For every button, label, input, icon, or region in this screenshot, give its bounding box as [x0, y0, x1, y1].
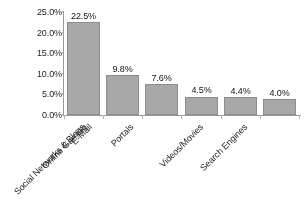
x-tick-mark: [221, 115, 222, 119]
bar-value-label: 7.6%: [144, 73, 179, 83]
y-tick-label: 25.0%: [4, 7, 62, 17]
bar-value-label: 4.4%: [223, 86, 258, 96]
x-tick-mark: [142, 115, 143, 119]
bar-online-gaming[interactable]: [106, 75, 139, 115]
bar-value-label: 4.5%: [184, 85, 219, 95]
y-tick-label: 0.0%: [4, 110, 62, 120]
x-label-videos-movies: Videos/Movies: [158, 122, 205, 169]
x-label-portals: Portals: [109, 122, 135, 148]
bar-chart: 25.0% 20.0% 15.0% 10.0% 5.0% 0.0% 22.5% …: [0, 0, 305, 216]
y-tick-label: 20.0%: [4, 28, 62, 38]
y-tick-label: 10.0%: [4, 69, 62, 79]
x-tick-mark: [103, 115, 104, 119]
bar-search-engines[interactable]: [263, 99, 296, 116]
bar-value-label: 9.8%: [105, 64, 140, 74]
x-tick-mark: [299, 115, 300, 119]
x-tick-mark: [260, 115, 261, 119]
bar-portals[interactable]: [185, 97, 218, 116]
plot-area: [64, 12, 300, 115]
bar-value-label: 4.0%: [262, 88, 297, 98]
y-tick-label: 5.0%: [4, 89, 62, 99]
bar-e-mail[interactable]: [145, 84, 178, 115]
bar-value-label: 22.5%: [66, 11, 101, 21]
y-tick-label: 15.0%: [4, 48, 62, 58]
x-tick-mark: [181, 115, 182, 119]
bar-social-networks-blogs[interactable]: [67, 22, 100, 115]
x-label-search-engines: Search Engines: [198, 122, 249, 173]
x-tick-mark: [64, 115, 65, 119]
x-axis-line: [63, 115, 301, 116]
bar-videos-movies[interactable]: [224, 97, 257, 115]
x-label-e-mail: E-Mail: [69, 122, 94, 147]
